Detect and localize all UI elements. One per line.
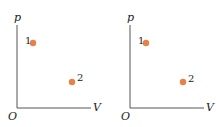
y-axis-label: p <box>127 12 134 23</box>
point-2-label: 2 <box>188 74 194 84</box>
state-point-2 <box>180 79 186 85</box>
point-2-label: 2 <box>77 73 83 83</box>
axes <box>108 0 216 127</box>
point-1-label: 1 <box>25 36 31 46</box>
pv-diagram-left: p V O 1 2 <box>0 0 108 127</box>
origin-label: O <box>121 111 130 122</box>
x-axis-label: V <box>93 102 101 113</box>
y-axis-label: p <box>14 12 21 23</box>
origin-label: O <box>8 111 17 122</box>
pv-diagram-right: p V O 1 2 <box>108 0 216 127</box>
point-1-label: 1 <box>138 36 144 46</box>
state-point-2 <box>69 79 75 85</box>
x-axis-label: V <box>206 102 214 113</box>
